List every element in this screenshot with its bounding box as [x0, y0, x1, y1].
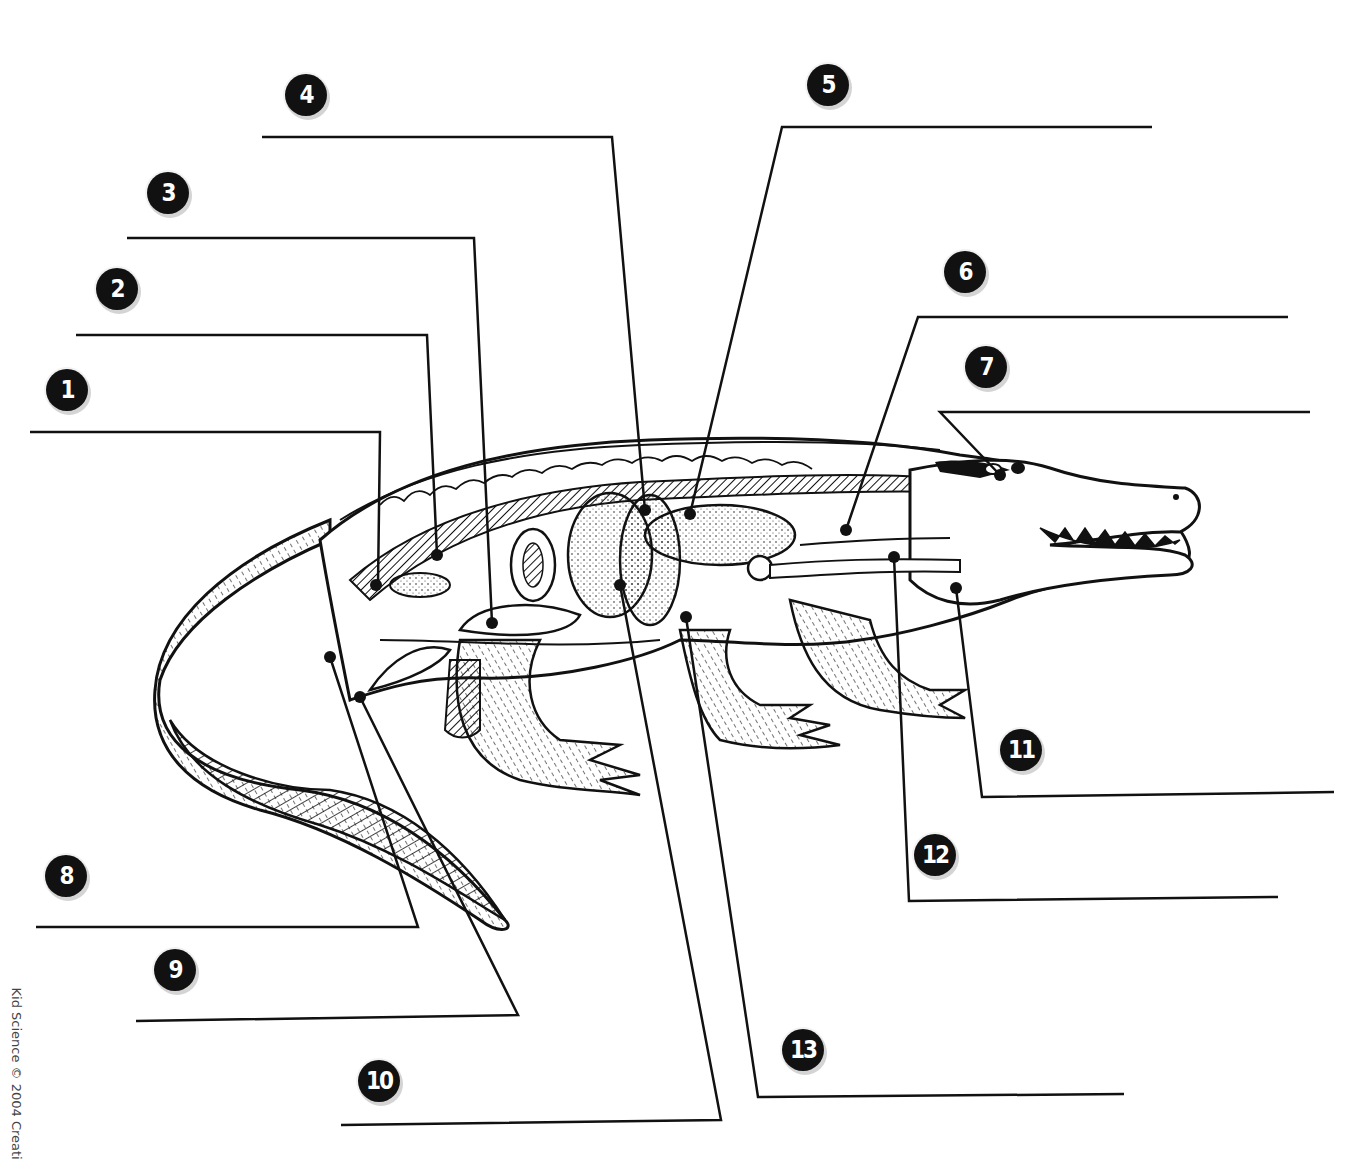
pointer-dot-2: [431, 549, 443, 561]
pointer-dot-1: [370, 579, 382, 591]
pointer-dot-3: [486, 617, 498, 629]
label-badge-5: 5: [807, 64, 849, 106]
pointer-dot-10: [614, 579, 626, 591]
kidney: [390, 573, 450, 597]
pointer-dot-12: [888, 551, 900, 563]
pointer-dot-7: [994, 469, 1006, 481]
label-badge-9: 9: [154, 949, 196, 991]
pointer-dot-11: [950, 582, 962, 594]
crocodile-illustration: [0, 0, 1369, 1174]
label-badge-7: 7: [965, 346, 1007, 388]
pointer-dot-4: [639, 504, 651, 516]
head: [910, 460, 1199, 604]
heart: [748, 556, 772, 580]
label-badge-13: 13: [782, 1029, 824, 1071]
pointer-dot-9: [354, 691, 366, 703]
label-badge-3: 3: [147, 172, 189, 214]
label-badge-8: 8: [45, 855, 87, 897]
label-badge-12: 12: [914, 834, 956, 876]
lung: [645, 505, 795, 565]
pointer-dot-6: [840, 524, 852, 536]
pointer-dot-5: [684, 508, 696, 520]
label-badge-2: 2: [96, 268, 138, 310]
label-badge-1: 1: [46, 369, 88, 411]
label-badge-11: 11: [1000, 729, 1042, 771]
pointer-dot-8: [324, 651, 336, 663]
crocodile-anatomy-diagram: 12345678910111213 Kid Science © 2004 Cre…: [0, 0, 1369, 1174]
pointer-dot-13: [680, 611, 692, 623]
label-badge-10: 10: [358, 1060, 400, 1102]
label-badge-4: 4: [285, 74, 327, 116]
copyright-text: Kid Science © 2004 Creati: [9, 988, 24, 1148]
label-badge-6: 6: [944, 251, 986, 293]
